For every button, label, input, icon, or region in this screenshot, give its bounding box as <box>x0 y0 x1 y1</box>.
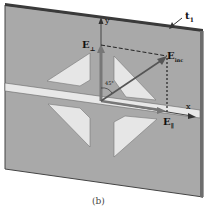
y-axis-label: y <box>105 17 110 25</box>
e-perp-label: E⊥ <box>82 40 95 52</box>
e-par-subscript: ∥ <box>171 122 174 129</box>
e-par-label: E∥ <box>163 117 174 129</box>
e-inc-label: Einc <box>167 51 183 63</box>
e-inc-subscript: inc <box>175 57 184 63</box>
diagram-canvas <box>0 0 210 210</box>
angle-label: 45° <box>105 81 114 86</box>
e-inc-text: E <box>167 50 175 61</box>
plate-right-edge <box>200 31 203 198</box>
e-par-text: E <box>163 116 171 127</box>
e-perp-subscript: ⊥ <box>90 45 96 52</box>
figure-caption: (b) <box>92 197 105 206</box>
thickness-label: t1 <box>185 11 194 23</box>
x-axis-label: x <box>186 103 191 111</box>
e-perp-text: E <box>82 39 90 50</box>
thickness-subscript: 1 <box>190 16 194 23</box>
